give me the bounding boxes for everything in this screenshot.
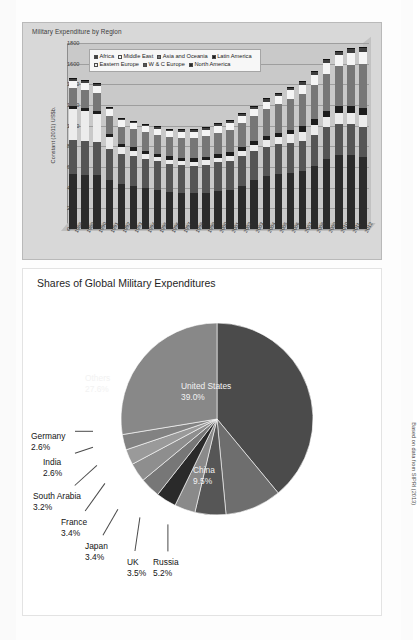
pie-slice-label: United States39.0% bbox=[181, 381, 231, 402]
bar-segment-wce bbox=[359, 127, 366, 157]
legend-swatch-icon bbox=[157, 55, 161, 59]
legend-label: W & C Europe bbox=[149, 61, 185, 67]
bar-segment-na bbox=[335, 155, 342, 229]
pie-slice-label: UK3.5% bbox=[127, 557, 146, 578]
bar-segment-ao bbox=[166, 137, 173, 156]
bar-segment-ee bbox=[263, 140, 270, 147]
bar-column bbox=[275, 93, 282, 229]
bar-segment-ao bbox=[202, 136, 209, 157]
bar-chart-plot-area: 020040060080010001200140016001800 Consta… bbox=[61, 43, 373, 238]
bar-segment-ao bbox=[69, 88, 76, 106]
bar-segment-me bbox=[275, 96, 282, 104]
bar-segment-wce bbox=[154, 161, 161, 189]
bar-segment-wce bbox=[93, 142, 100, 175]
pie-slice-percent: 3.4% bbox=[85, 552, 108, 563]
bar-segment-wce bbox=[81, 141, 88, 175]
bar-segment-me bbox=[106, 109, 113, 116]
bar-segment-ao bbox=[214, 133, 221, 154]
pie-label-leader-line bbox=[75, 447, 93, 454]
legend-row: Eastern EuropeW & C EuropeNorth America bbox=[94, 60, 256, 68]
legend-swatch-icon bbox=[118, 55, 122, 59]
pie-slice-percent: 3.4% bbox=[61, 528, 87, 539]
bar-segment-wce bbox=[202, 165, 209, 193]
bar-segment-me bbox=[263, 102, 270, 110]
bar-segment-me bbox=[347, 53, 354, 65]
pie-slice-percent: 9.5% bbox=[193, 476, 215, 487]
legend-item-wce: W & C Europe bbox=[143, 60, 185, 68]
pie-slice-name: Others bbox=[85, 373, 110, 383]
pie-label-leader-line bbox=[75, 431, 93, 432]
bar-segment-ao bbox=[347, 65, 354, 107]
bar-segment-na bbox=[275, 174, 282, 229]
bar-segment-ao bbox=[130, 129, 137, 147]
bar-column bbox=[347, 48, 354, 229]
bar-segment-ao bbox=[154, 135, 161, 154]
bar-segment-ao bbox=[287, 99, 294, 129]
pie-slice-label: Germany2.6% bbox=[31, 431, 65, 452]
pie-slice-label: Russia5.2% bbox=[153, 557, 179, 578]
bar-segment-wce bbox=[347, 124, 354, 154]
bar-segment-ao bbox=[93, 93, 100, 111]
bar-column bbox=[359, 47, 366, 229]
pie-slice-percent: 3.5% bbox=[127, 568, 146, 579]
bar-segment-wce bbox=[190, 166, 197, 194]
bar-segment-ao bbox=[190, 138, 197, 158]
bar-segment-wce bbox=[106, 149, 113, 180]
bar-segment-ao bbox=[142, 132, 149, 150]
bar-segment-me bbox=[359, 52, 366, 65]
bar-column bbox=[142, 124, 149, 229]
bar-column bbox=[81, 80, 88, 229]
pie-slice-name: India bbox=[43, 457, 61, 467]
bar-segment-me bbox=[69, 81, 76, 88]
bar-segment-wce bbox=[118, 154, 125, 184]
bar-segment-wce bbox=[142, 159, 149, 188]
pie-slice bbox=[121, 323, 217, 435]
bar-segment-ee bbox=[347, 113, 354, 125]
bar-segment-ee bbox=[287, 134, 294, 142]
bar-segment-na bbox=[323, 159, 330, 229]
pie-slice-percent: 2.6% bbox=[43, 468, 62, 479]
pie-label-leader-line bbox=[85, 483, 106, 511]
bar-segment-na bbox=[69, 174, 76, 229]
bar-segment-ao bbox=[275, 104, 282, 132]
legend-label: Asia and Oceania bbox=[163, 53, 208, 59]
bar-segment-la bbox=[347, 106, 354, 113]
bar-segment-wce bbox=[275, 144, 282, 174]
bar-segment-ee bbox=[335, 113, 342, 124]
bar-segment-na bbox=[250, 180, 257, 229]
pie-chart-plot-area bbox=[119, 321, 315, 517]
bar-chart-title: Military Expenditure by Region bbox=[32, 28, 122, 35]
bar-segment-ao bbox=[226, 130, 233, 153]
bar-segment-ao bbox=[299, 94, 306, 126]
bar-segment-me bbox=[311, 75, 318, 85]
bar-column bbox=[178, 129, 185, 229]
bar-column bbox=[226, 120, 233, 229]
legend-item-na: North America bbox=[189, 60, 231, 68]
bar-column bbox=[69, 78, 76, 229]
bar-column bbox=[214, 123, 221, 229]
bar-segment-na bbox=[263, 176, 270, 229]
bar-column bbox=[190, 129, 197, 229]
y-axis-label: Constant (2011) US$b. bbox=[50, 107, 56, 164]
bar-segment-ao bbox=[250, 116, 257, 141]
bar-column bbox=[335, 51, 342, 229]
bar-segment-ee bbox=[81, 111, 88, 141]
pie-slice-percent: 5.2% bbox=[153, 568, 179, 579]
bar-segment-me bbox=[250, 109, 257, 116]
pie-slice-label: Japan3.4% bbox=[85, 541, 108, 562]
bar-column bbox=[263, 98, 270, 229]
legend-label: Eastern Europe bbox=[100, 61, 140, 67]
legend-item-ee: Eastern Europe bbox=[94, 60, 139, 68]
bar-segment-ao bbox=[359, 64, 366, 107]
bar-segment-ao bbox=[118, 127, 125, 145]
bar-segment-ao bbox=[335, 66, 342, 106]
pie-slice-label: France3.4% bbox=[61, 517, 87, 538]
bar-segment-ee bbox=[323, 117, 330, 127]
bar-segment-ee bbox=[275, 137, 282, 144]
legend-swatch-icon bbox=[94, 55, 98, 59]
bar-segment-na bbox=[93, 175, 100, 229]
legend-swatch-icon bbox=[212, 55, 216, 59]
bar-segment-ao bbox=[311, 85, 318, 120]
bar-column bbox=[118, 118, 125, 230]
pie-slice-percent: 27.6% bbox=[85, 384, 110, 395]
